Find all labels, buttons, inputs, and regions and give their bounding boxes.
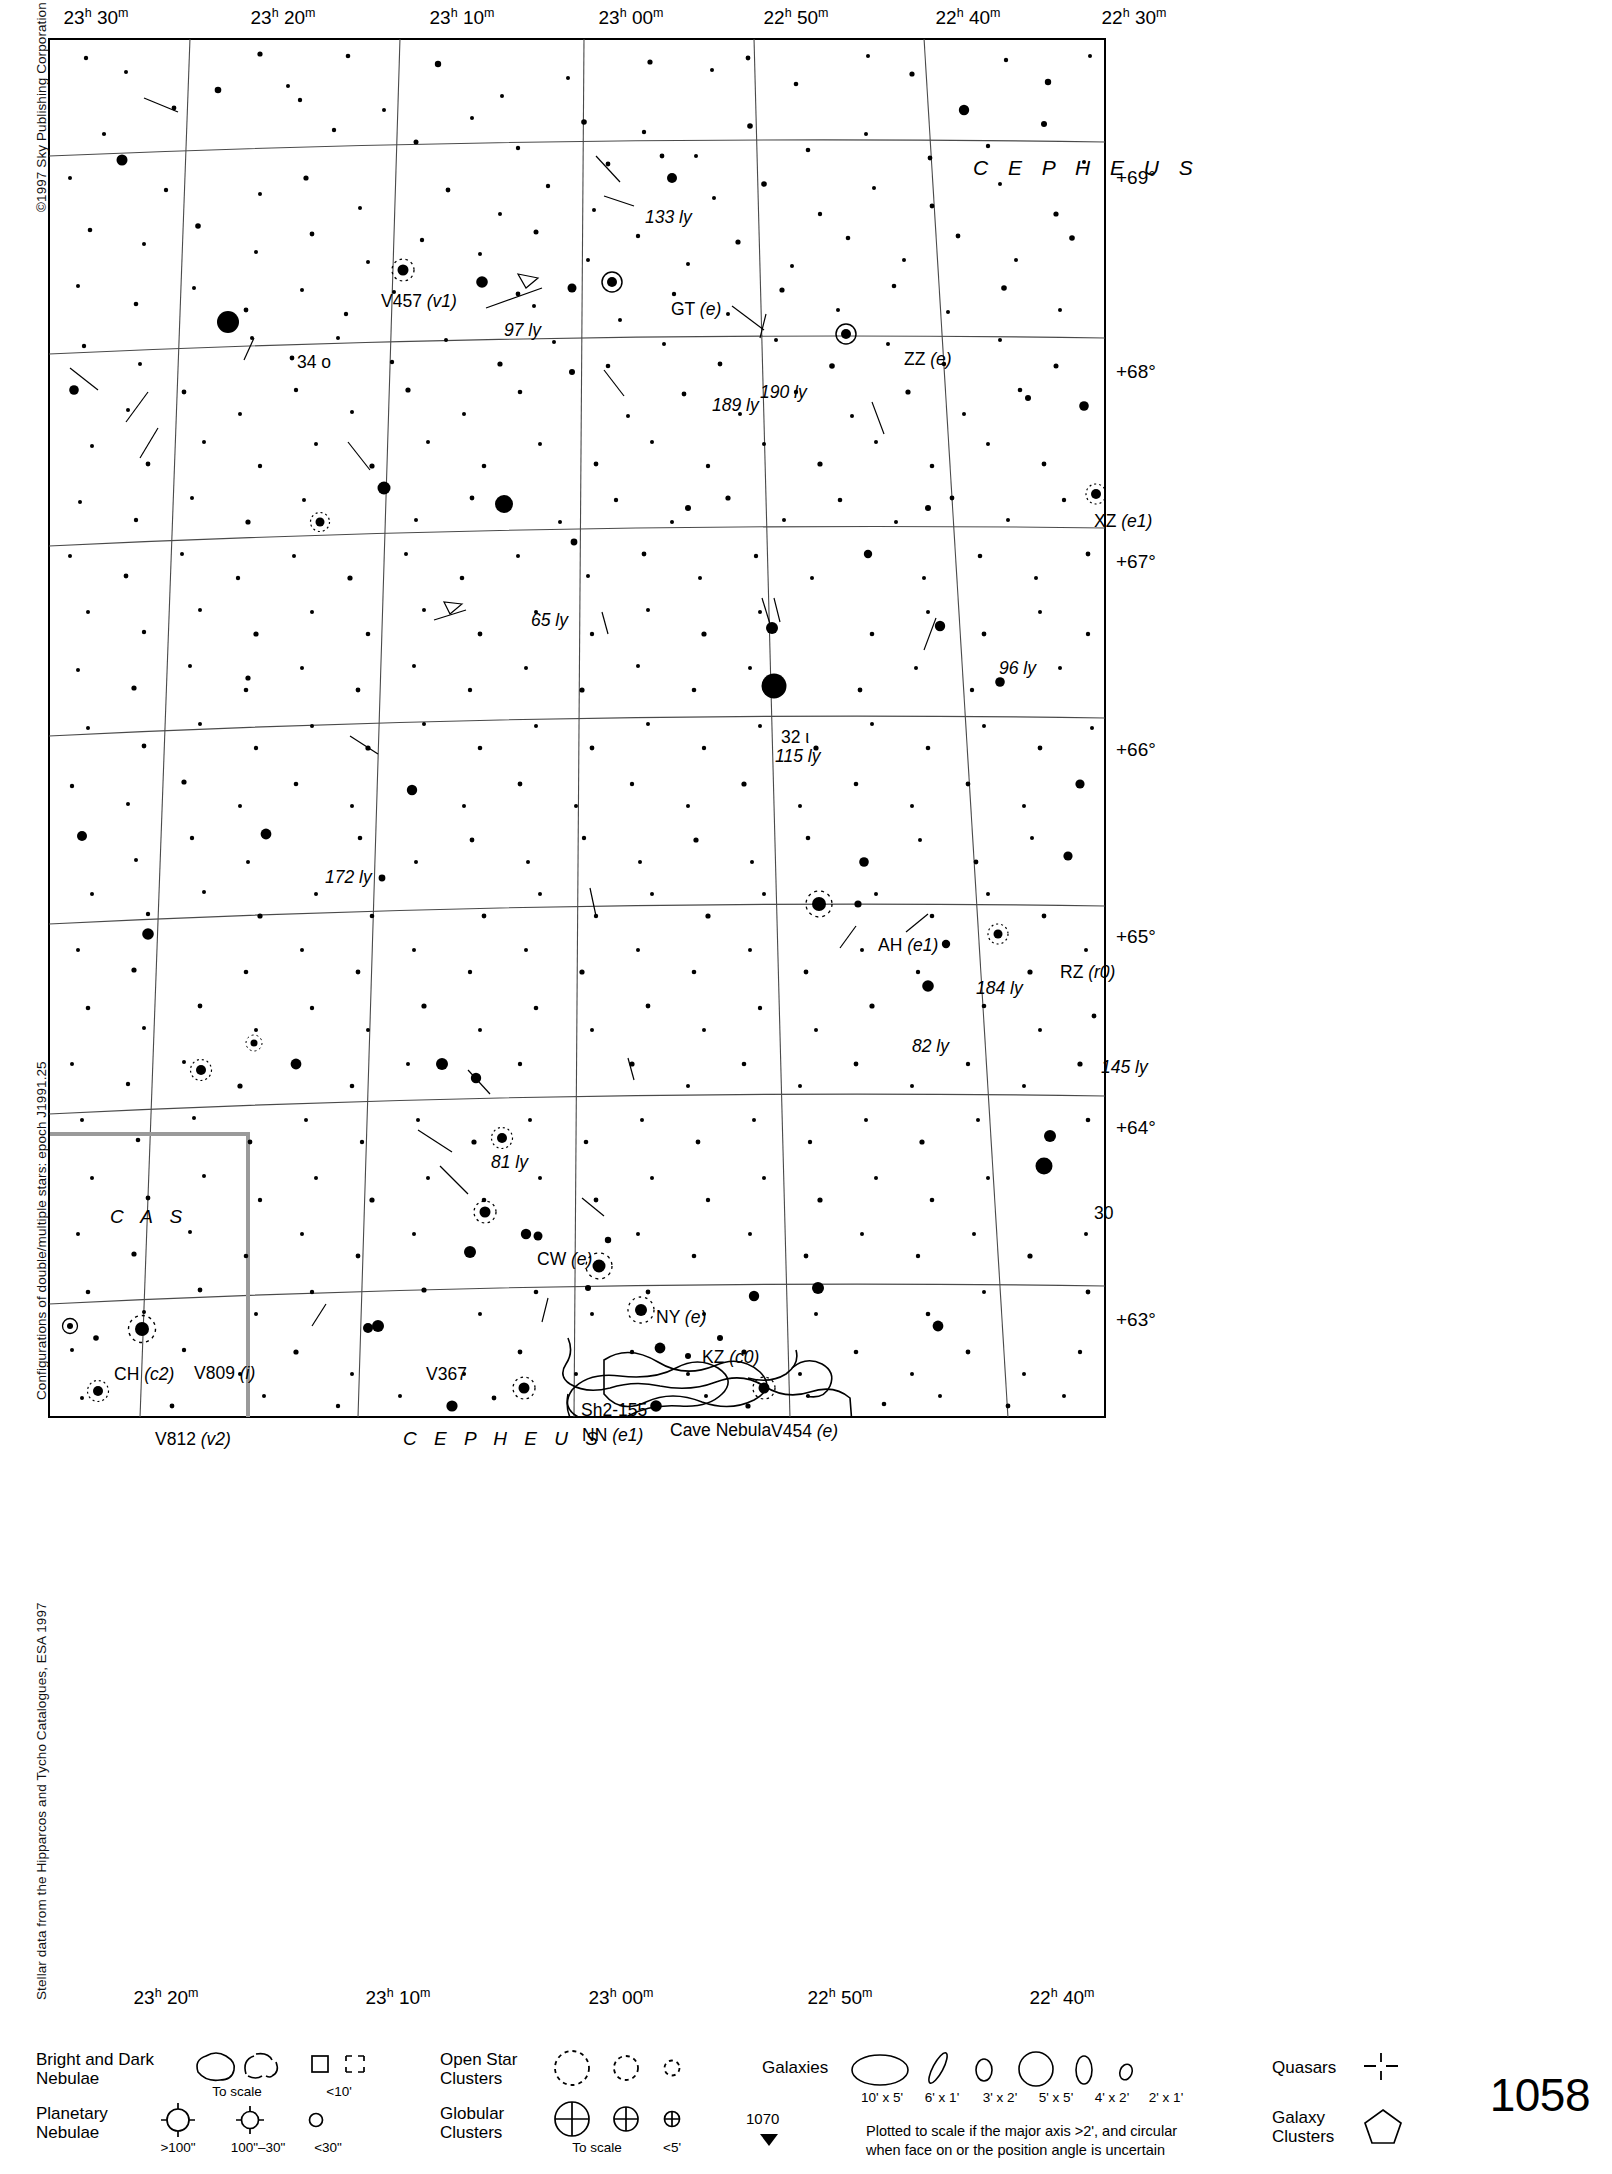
ra-tick-bottom: 23h 10m bbox=[366, 1986, 431, 2009]
star-label: XZ (e1) bbox=[1094, 512, 1152, 530]
star-label: 96 ly bbox=[999, 659, 1036, 677]
legend-quasars-label: Quasars bbox=[1272, 2058, 1336, 2077]
star-label: CW (e) bbox=[537, 1250, 592, 1268]
globular-cluster-symbols bbox=[550, 2098, 690, 2140]
next-page-arrow-icon bbox=[760, 2134, 778, 2146]
legend-open-clusters-label: Open Star Clusters bbox=[440, 2050, 518, 2088]
star-label: 115 ly bbox=[775, 747, 820, 765]
galaxy-cluster-symbol bbox=[1362, 2106, 1406, 2146]
legend-planetary-cap-large: >100" bbox=[148, 2140, 208, 2155]
star-label: RZ (r0) bbox=[1060, 963, 1115, 981]
variable-star-markers bbox=[63, 259, 1107, 1402]
constellation-name: C A S bbox=[110, 1206, 188, 1228]
star-label: V454 (e) bbox=[771, 1422, 838, 1440]
starfield bbox=[48, 38, 1106, 1418]
star-label: GT (e) bbox=[671, 300, 721, 318]
star-label: CH (c2) bbox=[114, 1365, 174, 1383]
nebula-symbols bbox=[190, 2046, 310, 2086]
star-label: NN (e1) bbox=[582, 1426, 643, 1444]
star-label: 190 ly bbox=[760, 383, 807, 401]
star-label: V457 (v1) bbox=[381, 292, 457, 310]
legend-galaxies-label: Galaxies bbox=[762, 2058, 828, 2077]
ra-tick-top: 22h 30m bbox=[1102, 6, 1167, 29]
ra-tick-bottom: 23h 20m bbox=[134, 1986, 199, 2009]
galaxy-size-caption: 2' x 1' bbox=[1136, 2090, 1196, 2105]
ra-tick-top: 23h 00m bbox=[599, 6, 664, 29]
star-label: AH (e1) bbox=[878, 936, 938, 954]
galaxy-size-caption: 10' x 5' bbox=[852, 2090, 912, 2105]
star-label: V367 bbox=[426, 1365, 467, 1383]
ra-tick-bottom: 23h 00m bbox=[589, 1986, 654, 2009]
credit-configurations: Configurations of double/multiple stars:… bbox=[34, 1061, 49, 1400]
nebula-small-symbols bbox=[310, 2052, 380, 2078]
galaxy-size-caption: 3' x 2' bbox=[970, 2090, 1030, 2105]
star-label: 82 ly bbox=[912, 1037, 949, 1055]
credit-hipparcos: Stellar data from the Hipparcos and Tych… bbox=[34, 1602, 49, 2000]
legend-galaxy-note: Plotted to scale if the major axis >2', … bbox=[866, 2122, 1177, 2160]
legend-planetary-cap-small: <30" bbox=[298, 2140, 358, 2155]
next-page-number: 1070 bbox=[746, 2110, 779, 2127]
quasar-symbol bbox=[1362, 2050, 1404, 2080]
legend-galaxy-clusters-label: Galaxy Clusters bbox=[1272, 2108, 1334, 2146]
legend-globular-to-scale-cap: To scale bbox=[556, 2140, 638, 2155]
legend-nebula-to-scale-cap: To scale bbox=[194, 2084, 280, 2099]
galaxy-size-caption: 5' x 5' bbox=[1026, 2090, 1086, 2105]
star-label: Cave Nebula bbox=[670, 1421, 771, 1439]
credit-copyright: ©1997 Sky Publishing Corporation bbox=[34, 2, 49, 212]
star-label: ZZ (e) bbox=[904, 350, 952, 368]
planetary-symbols bbox=[150, 2100, 390, 2140]
dec-tick-right: +66° bbox=[1116, 739, 1156, 761]
dec-tick-right: +67° bbox=[1116, 551, 1156, 573]
open-cluster-symbols bbox=[550, 2046, 690, 2088]
dec-tick-right: +64° bbox=[1116, 1117, 1156, 1139]
legend-planetary-label: Planetary Nebulae bbox=[36, 2104, 108, 2142]
dec-gridlines bbox=[48, 140, 1106, 1304]
star-label: 32 ι bbox=[781, 728, 809, 746]
galaxy-size-caption: 6' x 1' bbox=[912, 2090, 972, 2105]
star-label: 172 ly bbox=[325, 868, 372, 886]
legend-globular-clusters-label: Globular Clusters bbox=[440, 2104, 504, 2142]
star-label: V809 (i) bbox=[194, 1364, 255, 1382]
constellation-name: C E P H E U S bbox=[973, 156, 1200, 180]
ra-tick-top: 22h 50m bbox=[764, 6, 829, 29]
star-label: 145 ly bbox=[1101, 1058, 1148, 1076]
legend-nebula-small-cap: <10' bbox=[312, 2084, 366, 2099]
star-label: 97 ly bbox=[504, 321, 541, 339]
galaxy-size-caption: 4' x 2' bbox=[1082, 2090, 1142, 2105]
star-label: 30 bbox=[1094, 1204, 1113, 1222]
ra-tick-bottom: 22h 40m bbox=[1030, 1986, 1095, 2009]
page-number: 1058 bbox=[1490, 2068, 1590, 2122]
star-label: Sh2-155 bbox=[581, 1401, 647, 1419]
ra-tick-top: 23h 10m bbox=[430, 6, 495, 29]
dec-tick-right: +68° bbox=[1116, 361, 1156, 383]
star-label: V812 (v2) bbox=[155, 1430, 231, 1448]
ra-tick-top: 22h 40m bbox=[936, 6, 1001, 29]
star-label: 65 ly bbox=[531, 611, 568, 629]
star-label: KZ (c0) bbox=[702, 1348, 759, 1366]
star-label: 133 ly bbox=[645, 208, 692, 226]
dec-tick-right: +63° bbox=[1116, 1309, 1156, 1331]
legend-globular-small-cap: <5' bbox=[650, 2140, 694, 2155]
ra-tick-top: 23h 30m bbox=[64, 6, 129, 29]
star-label: 34 o bbox=[297, 353, 331, 371]
legend-planetary-cap-mid: 100"–30" bbox=[208, 2140, 308, 2155]
ra-tick-bottom: 22h 50m bbox=[808, 1986, 873, 2009]
star-label: 184 ly bbox=[976, 979, 1023, 997]
dec-tick-right: +65° bbox=[1116, 926, 1156, 948]
legend-nebulae-label: Bright and Dark Nebulae bbox=[36, 2050, 154, 2088]
star-label: 189 ly bbox=[712, 396, 759, 414]
ra-tick-top: 23h 20m bbox=[251, 6, 316, 29]
constellation-name: C E P H E U S bbox=[403, 1428, 604, 1450]
ra-gridlines bbox=[140, 38, 1008, 1418]
star-label: 81 ly bbox=[491, 1153, 528, 1171]
star-label: NY (e) bbox=[656, 1308, 706, 1326]
galaxy-symbols bbox=[850, 2046, 1150, 2090]
